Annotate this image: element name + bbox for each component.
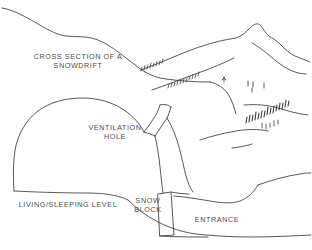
mountain-peak-line [236,24,310,62]
sleeping-chamber-outline [13,98,144,191]
label-living-sleeping-level: LIVING/SLEEPING LEVEL [8,200,128,209]
mid-ridge-line [152,58,234,90]
label-snow-block: SNOW BLOCK [127,196,169,214]
snow-cave-cross-section-figure: CROSS SECTION OF A SNOWDRIFT VENTILATION… [0,0,312,250]
mountain-lower-slope [200,130,268,141]
chamber-right-wall [155,136,163,193]
valley-line [232,144,252,148]
sleeping-chamber-floor [14,191,128,200]
tree-marks-upper-ridge [141,59,163,71]
label-entrance: ENTRANCE [186,215,248,224]
label-ventilation-hole: VENTILATION HOLE [78,123,152,141]
tree-marks-dense-belt-lower [262,120,278,129]
far-slope-line [258,173,311,185]
entrance-tunnel-floor-left-join [160,236,208,237]
entrance-roof-curve [167,118,193,192]
tree-marks-scattered [222,77,264,92]
snow-block-top-edge [171,192,189,194]
upper-ridge-line [141,38,236,70]
tree-marks-dense-belt [246,100,289,123]
label-cross-section-of-a-snowdrift: CROSS SECTION OF A SNOWDRIFT [20,52,136,70]
outer-drift-right-edge [210,82,236,114]
mountain-secondary-ridge [252,43,306,74]
ventilation-shaft-mouth [160,104,171,107]
